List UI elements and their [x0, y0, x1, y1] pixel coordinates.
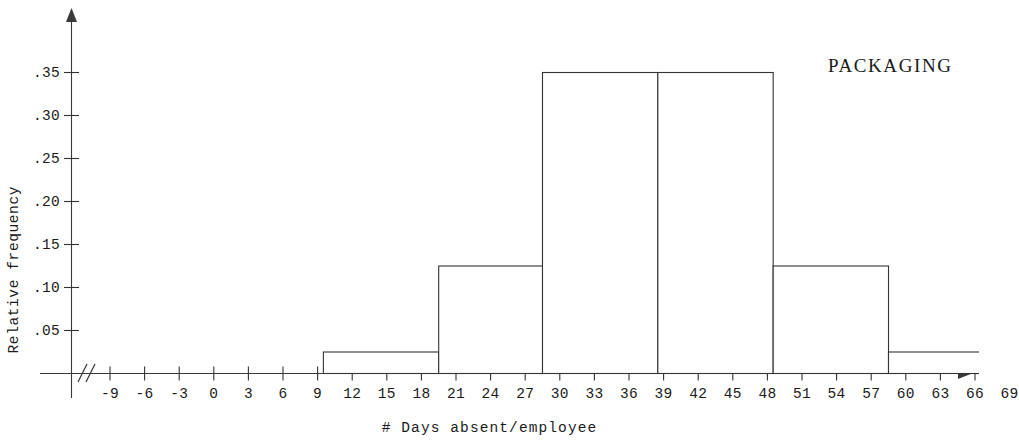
x-tick-label: 42 — [689, 386, 707, 402]
x-tick-label: 15 — [378, 386, 396, 402]
y-tick-label: .30 — [0, 108, 60, 124]
x-tick-label: 24 — [482, 386, 500, 402]
x-tick-label: 9 — [313, 386, 322, 402]
x-tick-label: 18 — [412, 386, 430, 402]
histogram-bar — [439, 266, 543, 374]
histogram-bar — [323, 352, 438, 374]
x-tick-label: -9 — [101, 386, 119, 402]
x-tick-label: 0 — [209, 386, 218, 402]
series-annotation-label: PACKAGING — [828, 55, 953, 77]
y-axis-arrow-icon — [66, 8, 77, 22]
x-tick-label: 69 — [1001, 386, 1019, 402]
x-tick-label: 33 — [585, 386, 603, 402]
x-tick-label: -6 — [136, 386, 154, 402]
x-axis-title: # Days absent/employee — [0, 420, 979, 436]
x-tick-label: 39 — [655, 386, 673, 402]
histogram-bar — [889, 352, 980, 374]
y-tick-label: .25 — [0, 151, 60, 167]
histogram-bar — [773, 266, 888, 374]
x-tick-label: -3 — [170, 386, 188, 402]
x-tick-label: 60 — [897, 386, 915, 402]
y-tick-label: .15 — [0, 237, 60, 253]
x-tick-label: 51 — [793, 386, 811, 402]
y-tick-label: .05 — [0, 323, 60, 339]
x-tick-label: 27 — [516, 386, 534, 402]
x-tick-label: 45 — [724, 386, 742, 402]
y-tick-label: .35 — [0, 65, 60, 81]
histogram-bar — [543, 73, 658, 374]
y-tick-label: .10 — [0, 280, 60, 296]
x-tick-label: 3 — [244, 386, 253, 402]
x-tick-label: 6 — [278, 386, 287, 402]
y-tick-label: .20 — [0, 194, 60, 210]
x-tick-label: 21 — [447, 386, 465, 402]
x-tick-label: 30 — [551, 386, 569, 402]
x-tick-label: 54 — [828, 386, 846, 402]
x-tick-label: 12 — [343, 386, 361, 402]
x-tick-label: 48 — [758, 386, 776, 402]
x-tick-label: 63 — [931, 386, 949, 402]
x-tick-label: 57 — [862, 386, 880, 402]
x-tick-label: 36 — [620, 386, 638, 402]
x-tick-label: 66 — [966, 386, 984, 402]
histogram-bar — [658, 73, 773, 374]
histogram-bars — [323, 73, 979, 374]
